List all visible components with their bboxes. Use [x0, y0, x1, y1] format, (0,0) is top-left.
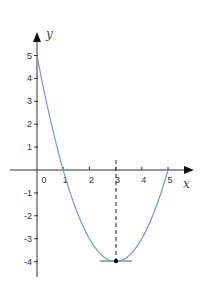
x-tick-label: 2 [89, 175, 94, 185]
y-tick-label: 3 [27, 96, 32, 106]
y-tick-label: 2 [27, 119, 32, 129]
x-tick-label: 4 [141, 175, 146, 185]
y-tick-label: -2 [24, 211, 32, 221]
x-axis-label: x [183, 177, 190, 191]
y-tick-label: 4 [27, 73, 32, 83]
y-axis-arrow-icon [33, 32, 41, 42]
parabola-chart: 54321-1-2-3-4 012345 x y [0, 0, 209, 291]
y-tick-label: -4 [24, 257, 32, 267]
parabola-curve [37, 56, 168, 262]
y-axis-label: y [45, 27, 53, 41]
x-axis-arrow-icon [184, 166, 194, 174]
y-axis-ticks: 54321-1-2-3-4 [24, 51, 38, 267]
x-tick-label: 0 [41, 175, 46, 185]
y-tick-label: -1 [24, 188, 32, 198]
x-tick-label: 5 [167, 175, 172, 185]
y-tick-label: 1 [27, 142, 32, 152]
vertex-point [114, 259, 118, 263]
y-tick-label: 5 [27, 51, 32, 61]
y-tick-label: -3 [24, 234, 32, 244]
